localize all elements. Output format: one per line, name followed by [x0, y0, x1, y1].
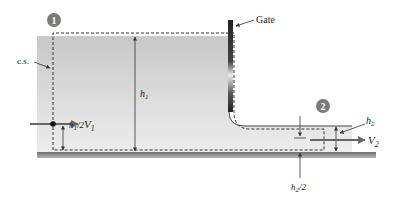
cs-label: c.s. — [17, 56, 29, 66]
h2-label: h2 — [366, 115, 375, 128]
station-1-badge: 1 — [47, 13, 61, 27]
h2-half-label: h2/2 — [291, 182, 307, 194]
gate-label: Gate — [256, 14, 275, 25]
v2-label: V2 — [368, 134, 379, 149]
station-2-badge: 2 — [316, 99, 330, 113]
sluice-gate-diagram: 1 2 c.s. Gate V1 h1/2 h1 h2 h2/2 V2 — [0, 0, 393, 199]
svg-text:2: 2 — [321, 101, 326, 112]
svg-text:1: 1 — [52, 15, 57, 26]
water-region — [37, 36, 352, 152]
channel-floor — [37, 152, 376, 158]
free-surface — [229, 112, 352, 126]
gate — [228, 20, 233, 112]
v1-point — [50, 121, 56, 127]
gate-leader — [236, 20, 254, 26]
